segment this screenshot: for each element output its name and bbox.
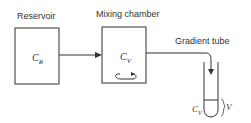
arrowhead-icon: [95, 52, 102, 58]
mixing-concentration: CV: [120, 51, 131, 65]
volume-brace-icon: [221, 99, 225, 116]
outlet-arrowhead-icon: [208, 69, 214, 75]
subscript: R: [39, 58, 43, 66]
mixing-chamber-title: Mixing chamber: [96, 9, 160, 19]
reservoir-title: Reservoir: [17, 11, 56, 21]
subscript: V: [198, 110, 202, 116]
symbol: C: [120, 51, 127, 62]
gradient-tube-title: Gradient tube: [175, 36, 230, 46]
reservoir-concentration: CR: [32, 52, 43, 66]
symbol: C: [32, 52, 39, 63]
stirrer-arrow-icon: [131, 72, 135, 76]
tube-concentration: CV: [192, 104, 202, 116]
subscript: V: [127, 57, 131, 65]
outlet-line: [146, 53, 211, 71]
tube-volume-label: V: [226, 102, 232, 112]
